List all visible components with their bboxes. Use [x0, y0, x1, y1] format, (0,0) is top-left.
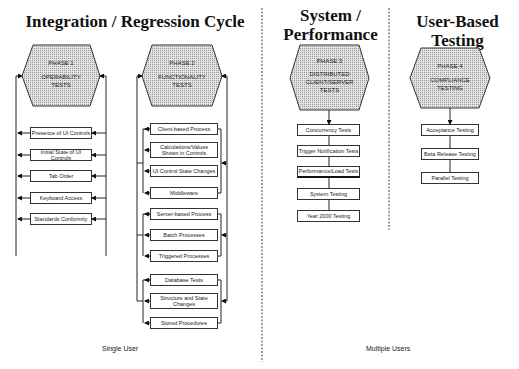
phase-2-name-line2: TESTS — [142, 81, 222, 89]
phase-4-label: PHASE 4 COMPLIANCE TESTING — [410, 48, 490, 108]
phase-4-number: PHASE 4 — [410, 62, 490, 70]
phase-2-test-box: Calculations/Values Shown in Controls — [150, 142, 218, 158]
phase-1-test-box: Keyboard Access — [30, 192, 92, 204]
phase-1-label: PHASE 1 OPERABILITY TESTS — [22, 45, 100, 106]
multiple-users-label: Multiple Users — [366, 345, 410, 352]
phase-4-name-line2: TESTING — [410, 84, 490, 92]
phase-3-name-line1: DISTRIBUTED — [290, 70, 369, 78]
phase-3-label: PHASE 3 DISTRIBUTED CLIENT/SERVER TESTS — [290, 45, 369, 110]
phase-1-test-box: Presence of UI Controls — [30, 127, 92, 139]
phase-3-test-box: Performance/Load Tests — [297, 166, 360, 178]
phase-1-name-line1: OPERABILITY — [22, 73, 100, 81]
phase-1-test-box: Standards Conformity — [30, 213, 92, 225]
phase-1-test-box: Tab Order — [30, 170, 92, 182]
phase-3-test-box: Concurrency Tests — [297, 124, 360, 136]
phase-2-test-box: Structure and State Changes — [150, 293, 218, 309]
phase-4-test-box: Beta Release Testing — [421, 148, 479, 160]
single-user-label: Single User — [102, 345, 138, 352]
phase-3-test-box: Trigger Notification Tests — [297, 145, 360, 157]
phase-1-test-box: Initial State of UI Controls — [30, 149, 92, 161]
phase-1-name-line2: TESTS — [22, 81, 100, 89]
phase-4-test-box: Acceptance Testing — [421, 124, 479, 136]
phase-3-test-box: Year 2000 Testing — [297, 210, 360, 222]
phase-4-test-box: Parallel Testing — [421, 172, 479, 184]
phase-3-number: PHASE 3 — [290, 57, 369, 65]
phase-3-test-box: System Testing — [297, 188, 360, 200]
phase-2-label: PHASE 2 FUNCTIONALITY TESTS — [142, 45, 222, 106]
phase-2-test-box: Batch Processes — [150, 229, 218, 241]
phase-2-test-box: UI Control State Changes — [150, 165, 218, 177]
phase-2-test-box: Server-based Process — [150, 208, 218, 220]
phase-2-number: PHASE 2 — [142, 59, 222, 67]
phase-3-name-line2: CLIENT/SERVER — [290, 78, 369, 86]
phase-2-test-box: Database Tests — [150, 274, 218, 286]
phase-2-name-line1: FUNCTIONALITY — [142, 73, 222, 81]
phase-2-test-box: Client-based Process — [150, 123, 218, 135]
phase-4-name-line1: COMPLIANCE — [410, 76, 490, 84]
phase-2-test-box: Stored Procedures — [150, 317, 218, 329]
phase-2-test-box: Triggered Processes — [150, 250, 218, 262]
phase-3-name-line3: TESTS — [290, 86, 369, 94]
phase-1-number: PHASE 1 — [22, 59, 100, 67]
phase-2-test-box: Middleware — [150, 187, 218, 199]
